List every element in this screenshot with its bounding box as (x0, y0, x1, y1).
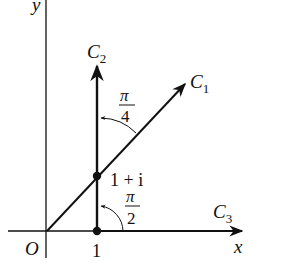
label-c3: C3 (213, 201, 232, 226)
curve-c1 (47, 84, 185, 231)
y-axis-label: y (30, 0, 41, 15)
tick-label-1: 1 (92, 241, 101, 261)
point-1 (93, 227, 101, 235)
label-c2: C2 (87, 41, 106, 66)
svg-text:2: 2 (127, 209, 136, 228)
angle-label-pi-over-4: π 4 (119, 86, 135, 126)
point-1-plus-i (93, 172, 101, 180)
x-axis-label: x (233, 236, 243, 257)
angle-label-pi-over-2: π 2 (125, 187, 140, 228)
angle-arc-pi-over-2 (101, 206, 123, 231)
svg-text:π: π (126, 187, 135, 206)
origin-label: O (25, 238, 39, 259)
complex-plane-diagram: y x O 1 C2 C1 C3 1 + i π 4 π 2 (0, 0, 285, 268)
angle-arc-pi-over-4 (101, 118, 136, 133)
svg-text:π: π (120, 86, 129, 105)
label-c1: C1 (190, 71, 209, 96)
svg-text:4: 4 (121, 107, 130, 126)
